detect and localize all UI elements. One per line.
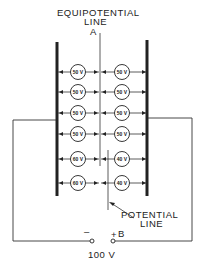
field-row: 50 V50 V — [58, 85, 146, 100]
field-diagram: 50 V50 V50 V50 V50 V50 V50 V50 V60 V40 V… — [0, 0, 205, 269]
field-row: 60 V40 V — [58, 152, 146, 167]
potential-label-line2: LINE — [140, 219, 163, 229]
positive-terminal-label: + — [111, 230, 117, 240]
field-row: 60 V40 V — [58, 176, 146, 191]
negative-terminal-label: – — [84, 227, 90, 237]
voltage-cell-label: 50 V — [117, 131, 128, 137]
voltage-cell-label: 50 V — [73, 131, 84, 137]
voltage-cell-label: 50 V — [117, 69, 128, 75]
voltage-cell-label: 50 V — [73, 110, 84, 116]
point-b-label: B — [118, 229, 125, 239]
voltage-cell-label: 50 V — [73, 89, 84, 95]
equipotential-point-a: A — [90, 27, 97, 37]
voltage-cell-label: 50 V — [117, 89, 128, 95]
negative-terminal-icon — [90, 239, 94, 243]
field-row: 50 V50 V — [58, 106, 146, 121]
field-rows: 50 V50 V50 V50 V50 V50 V50 V50 V60 V40 V… — [58, 65, 146, 191]
field-row: 50 V50 V — [58, 127, 146, 142]
voltage-cell-label: 40 V — [117, 156, 128, 162]
voltage-cell-label: 60 V — [73, 180, 84, 186]
field-row: 50 V50 V — [58, 65, 146, 80]
voltage-cell-label: 50 V — [117, 110, 128, 116]
voltage-cell-label: 60 V — [73, 156, 84, 162]
voltage-cell-label: 40 V — [117, 180, 128, 186]
voltage-cell-label: 50 V — [73, 69, 84, 75]
source-voltage-label: 100 V — [88, 250, 115, 260]
